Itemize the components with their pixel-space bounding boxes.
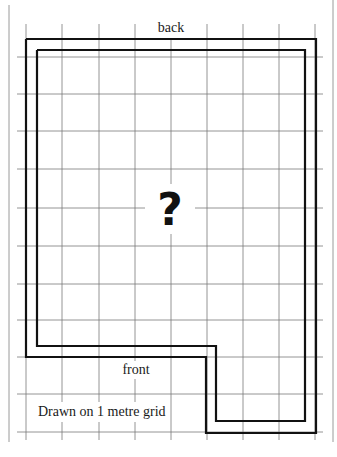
front-label: front: [122, 362, 149, 377]
back-label: back: [158, 20, 184, 35]
grid-scale-note: Drawn on 1 metre grid: [38, 404, 166, 419]
question-mark: ?: [157, 184, 183, 235]
floor-plan-diagram: back ? front Drawn on 1 metre grid: [0, 0, 337, 457]
